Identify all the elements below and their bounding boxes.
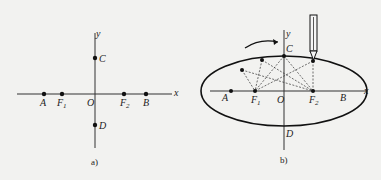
point-f2: [122, 92, 126, 96]
label-d: D: [285, 128, 294, 139]
ellipse-construction-figure: x y A F1 O F2 B C D a) x y: [0, 0, 381, 180]
point-c: [93, 56, 97, 60]
label-b: B: [143, 97, 149, 108]
y-axis-label: y: [285, 28, 291, 39]
label-c: C: [99, 53, 106, 64]
label-origin: O: [277, 94, 284, 105]
y-axis-label: y: [95, 28, 101, 39]
construction-lines: [242, 56, 313, 91]
label-a: A: [39, 97, 47, 108]
point-b: [144, 92, 148, 96]
point-d: [93, 123, 97, 127]
point-a: [229, 89, 233, 93]
arrowhead-icon: [273, 39, 278, 45]
point-f2: [311, 89, 315, 93]
x-axis-label: x: [173, 87, 179, 98]
label-f1: F1: [250, 94, 261, 107]
label-f2: F2: [308, 94, 319, 107]
ellipse-point: [240, 68, 244, 72]
curved-arrow-icon: [245, 41, 278, 48]
caption-a: a): [91, 157, 98, 167]
label-f1: F1: [56, 97, 67, 110]
label-b: B: [340, 92, 346, 103]
label-a: A: [221, 92, 229, 103]
figure-b: x y A F1 O F: [201, 15, 369, 165]
label-f2: F2: [119, 97, 130, 110]
pencil-icon: [310, 15, 317, 60]
label-c: C: [286, 43, 293, 54]
point-f1: [60, 92, 64, 96]
point-f1: [253, 89, 257, 93]
figure-a: x y A F1 O F2 B C D a): [17, 28, 179, 167]
label-origin: O: [87, 97, 94, 108]
caption-b: b): [280, 155, 288, 165]
label-d: D: [98, 120, 107, 131]
point-a: [42, 92, 46, 96]
ellipse-point: [260, 58, 264, 62]
point-c: [282, 54, 286, 58]
